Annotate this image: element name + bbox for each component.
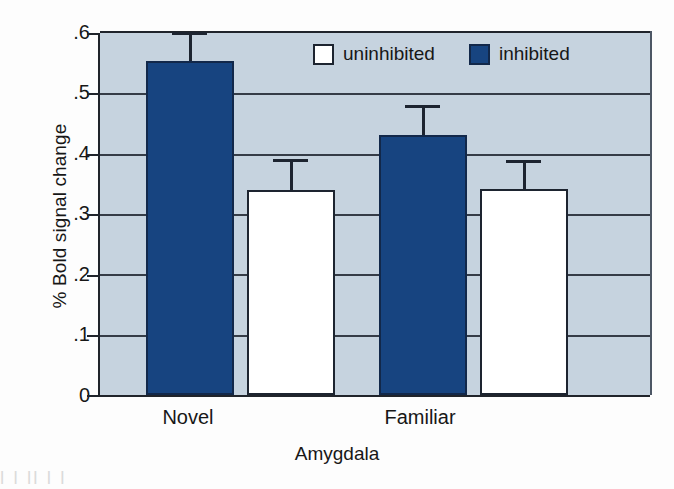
- x-tick-label-novel: Novel: [88, 406, 288, 429]
- bar-novel-uninhibited: [247, 190, 335, 395]
- errorbar-stem-familiar-uninhibited: [523, 161, 526, 189]
- y-tick-label-0_4: .4: [44, 143, 90, 163]
- y-tick-label-0_2: .2: [44, 264, 90, 284]
- errorbar-cap-familiar-uninhibited: [506, 160, 541, 163]
- bar-familiar-uninhibited: [480, 189, 568, 395]
- y-tick-mark-0: [87, 395, 98, 397]
- errorbar-cap-familiar-inhibited: [405, 105, 440, 108]
- x-axis-title: Amygdala: [0, 443, 674, 465]
- y-tick-mark-0_6: [87, 33, 98, 35]
- figure-bar-chart: % Bold signal change .6 .5 .4 .3 .2 .1 0: [0, 0, 674, 489]
- errorbar-cap-novel-uninhibited: [273, 159, 308, 162]
- errorbar-cap-novel-inhibited: [172, 32, 207, 35]
- errorbar-stem-novel-uninhibited: [290, 160, 293, 190]
- legend-label-inhibited: inhibited: [499, 43, 570, 65]
- legend-item-uninhibited: uninhibited: [313, 43, 435, 65]
- plot-area: uninhibited inhibited: [98, 33, 650, 397]
- scan-artifact-text: l l ll l l: [0, 467, 674, 489]
- y-tick-label-0_3: .3: [44, 203, 90, 223]
- y-tick-mark-0_5: [87, 93, 98, 95]
- y-tick-label-0_5: .5: [44, 82, 90, 102]
- bar-novel-inhibited: [146, 61, 234, 395]
- y-tick-mark-0_1: [87, 335, 98, 337]
- plot-frame-right-border: [650, 31, 652, 395]
- y-tick-label-0_1: .1: [44, 324, 90, 344]
- legend-swatch-uninhibited-icon: [313, 44, 334, 65]
- y-tick-mark-0_4: [87, 154, 98, 156]
- legend-swatch-inhibited-icon: [469, 44, 490, 65]
- legend-item-inhibited: inhibited: [469, 43, 570, 65]
- legend: uninhibited inhibited: [313, 43, 570, 65]
- y-tick-mark-0_3: [87, 214, 98, 216]
- y-tick-mark-0_2: [87, 275, 98, 277]
- errorbar-stem-novel-inhibited: [189, 33, 192, 61]
- y-axis-tick-labels: .6 .5 .4 .3 .2 .1 0: [46, 0, 90, 489]
- errorbar-stem-familiar-inhibited: [422, 106, 425, 135]
- y-tick-label-0: 0: [44, 385, 90, 405]
- legend-label-uninhibited: uninhibited: [343, 43, 435, 65]
- bar-familiar-inhibited: [379, 135, 467, 395]
- y-tick-label-0_6: .6: [44, 22, 90, 42]
- x-tick-label-familiar: Familiar: [320, 406, 520, 429]
